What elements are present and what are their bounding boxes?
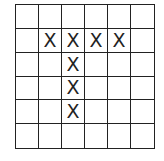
grid-cell-marked: X [62, 100, 85, 124]
grid-cell [16, 53, 39, 77]
grid-cell [16, 124, 39, 148]
grid-cell [16, 5, 39, 29]
grid-cell [39, 5, 62, 29]
grid-cell-marked: X [62, 29, 85, 53]
grid-cell-marked: X [108, 29, 131, 53]
grid-cell [16, 29, 39, 53]
grid-cell-marked: X [85, 29, 108, 53]
grid-cell [85, 100, 108, 124]
grid-cell [131, 29, 154, 53]
grid-cell [62, 5, 85, 29]
grid-cell [108, 77, 131, 101]
grid-6x6: XXXXXXX [15, 4, 155, 149]
grid-cell [16, 100, 39, 124]
grid-cell [85, 124, 108, 148]
grid-cell [131, 53, 154, 77]
grid-cell [108, 124, 131, 148]
grid-cell [131, 77, 154, 101]
grid-cell [85, 5, 108, 29]
grid-cell-marked: X [62, 77, 85, 101]
grid-cell [131, 124, 154, 148]
grid-cell-marked: X [62, 53, 85, 77]
grid-cell-marked: X [39, 29, 62, 53]
grid-cell [85, 53, 108, 77]
grid-cell [108, 53, 131, 77]
grid-cell [85, 77, 108, 101]
grid-cell [39, 77, 62, 101]
grid-cell [62, 124, 85, 148]
grid-cell [108, 100, 131, 124]
grid-cell [39, 53, 62, 77]
grid-cell [131, 100, 154, 124]
grid-cell [39, 124, 62, 148]
grid-cell [131, 5, 154, 29]
grid-cell [108, 5, 131, 29]
grid-cell [16, 77, 39, 101]
grid-cell [39, 100, 62, 124]
